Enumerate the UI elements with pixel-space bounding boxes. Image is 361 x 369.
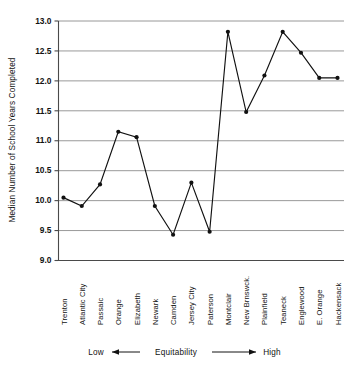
series-line-median-years xyxy=(64,32,338,235)
y-tick-label-10-0: 10.0 xyxy=(35,195,52,205)
data-point xyxy=(317,76,321,80)
chart-container: 13.012.512.011.511.010.510.09.59.0 Media… xyxy=(0,0,361,369)
x-tick-label-elizabeth: Elizabeth xyxy=(133,293,142,325)
data-point xyxy=(98,182,102,186)
x-tick-label-montclair: Montclair xyxy=(224,293,233,325)
data-point xyxy=(171,233,175,237)
data-point xyxy=(226,30,230,34)
x-tick-label-camden: Camden xyxy=(169,296,178,325)
x-tick-label-paterson: Paterson xyxy=(206,294,215,325)
x-tick-label-e-orange: E. Orange xyxy=(315,289,324,325)
data-point xyxy=(208,230,212,234)
x-tick-label-plainfield: Plainfield xyxy=(260,293,269,325)
data-point xyxy=(61,196,65,200)
y-tick-label-11-5: 11.5 xyxy=(36,106,52,116)
x-tick-label-englewood: Englewood xyxy=(297,287,306,325)
series-path-group xyxy=(64,32,338,235)
data-point xyxy=(116,130,120,134)
y-axis-title: Median Number of School Years Completed xyxy=(8,57,17,222)
y-tick-label-10-5: 10.5 xyxy=(35,165,52,175)
caption-high-label: High xyxy=(263,348,281,357)
data-point xyxy=(80,204,84,208)
gridlines-group xyxy=(59,21,345,261)
equitability-caption-group: Low Equitability High xyxy=(88,348,281,357)
caption-low-label: Low xyxy=(88,348,104,357)
y-tick-label-12-5: 12.5 xyxy=(35,46,52,56)
caption-center-label: Equitability xyxy=(155,348,198,357)
y-tick-label-9-5: 9.5 xyxy=(40,225,52,235)
x-tick-label-hackensack: Hackensack xyxy=(334,283,343,325)
y-tick-label-13-0: 13.0 xyxy=(35,16,52,26)
x-tick-label-teaneck: Teaneck xyxy=(279,296,288,325)
data-point xyxy=(244,110,248,114)
x-tick-label-jersey-city: Jersey City xyxy=(187,286,196,325)
data-point xyxy=(299,51,303,55)
data-point xyxy=(335,76,339,80)
y-tick-label-12-0: 12.0 xyxy=(35,76,52,86)
x-tick-label-passaic: Passaic xyxy=(96,298,105,325)
data-point xyxy=(134,135,138,139)
x-axis-tick-labels-group: TrentonAtlantic CityPassaicOrangeElizabe… xyxy=(60,276,343,325)
y-axis-tick-labels-group: 13.012.512.011.511.010.510.09.59.0 xyxy=(35,16,52,266)
y-axis-ticks-group xyxy=(55,21,59,261)
y-tick-label-11-0: 11.0 xyxy=(36,135,52,145)
x-tick-label-new-brnswck: New Brnswck. xyxy=(242,276,251,325)
data-point xyxy=(153,204,157,208)
line-chart: 13.012.512.011.511.010.510.09.59.0 Media… xyxy=(0,0,361,369)
x-tick-label-trenton: Trenton xyxy=(60,298,69,325)
caption-left-arrow-head-icon xyxy=(112,349,119,355)
data-point xyxy=(281,30,285,34)
x-tick-label-atlantic-city: Atlantic City xyxy=(78,284,87,325)
data-point xyxy=(262,73,266,77)
y-tick-label-9-0: 9.0 xyxy=(40,255,52,265)
caption-right-arrow-head-icon xyxy=(249,349,256,355)
x-tick-label-orange: Orange xyxy=(114,299,123,325)
x-tick-label-newark: Newark xyxy=(151,299,160,325)
data-point xyxy=(189,181,193,185)
